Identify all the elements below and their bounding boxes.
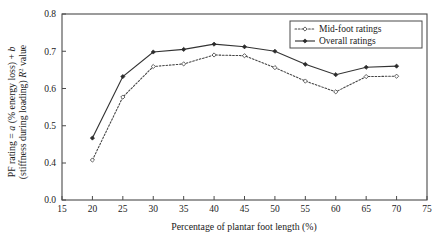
y-axis-ticks: 0.00.40.50.60.70.8 xyxy=(44,9,66,205)
data-point-marker xyxy=(394,64,398,68)
legend-item-label-2: Overall ratings xyxy=(319,36,376,46)
data-point-marker xyxy=(212,53,216,57)
y-tick-label: 0.8 xyxy=(44,9,56,19)
series-layer xyxy=(90,42,398,162)
line-chart: PF rating = a (% energy loss) + b (stiff… xyxy=(0,0,444,240)
data-point-marker xyxy=(273,49,277,53)
data-point-marker xyxy=(90,158,94,162)
y-axis-title: PF rating = a (% energy loss) + b (stiff… xyxy=(6,44,29,179)
data-point-marker xyxy=(273,66,277,70)
x-tick-label: 75 xyxy=(422,204,432,214)
chart-legend: Mid-foot ratingsOverall ratings xyxy=(290,21,422,48)
y-tick-label: 0.5 xyxy=(44,121,56,131)
y-axis-title-line2: (stiffness during loading) R2 value xyxy=(17,44,30,179)
x-tick-label: 60 xyxy=(331,204,341,214)
chart-figure: PF rating = a (% energy loss) + b (stiff… xyxy=(0,0,444,240)
data-point-marker xyxy=(334,90,338,94)
x-tick-label: 65 xyxy=(361,204,371,214)
data-point-marker xyxy=(182,62,186,66)
x-tick-label: 35 xyxy=(179,204,189,214)
x-tick-label: 40 xyxy=(209,204,219,214)
data-point-marker xyxy=(364,74,368,78)
y-tick-label: 0.4 xyxy=(44,158,56,168)
x-tick-label: 45 xyxy=(240,204,250,214)
data-point-marker xyxy=(303,62,307,66)
data-point-marker xyxy=(90,136,94,140)
y-tick-label: 0.7 xyxy=(44,47,56,57)
x-axis-ticks: 15202530354045505560657075 xyxy=(57,196,432,214)
y-tick-label: 0.0 xyxy=(44,195,56,205)
data-point-marker xyxy=(242,54,246,58)
y-tick-label: 0.6 xyxy=(44,84,56,94)
data-point-marker xyxy=(212,42,216,46)
x-tick-label: 30 xyxy=(149,204,159,214)
legend-item-label-1: Mid-foot ratings xyxy=(319,24,382,34)
x-tick-label: 25 xyxy=(118,204,128,214)
x-tick-label: 55 xyxy=(301,204,311,214)
data-point-marker xyxy=(303,79,307,83)
data-point-marker xyxy=(334,73,338,77)
data-point-marker xyxy=(242,45,246,49)
x-tick-label: 70 xyxy=(392,204,402,214)
x-tick-label: 50 xyxy=(270,204,280,214)
x-tick-label: 20 xyxy=(88,204,98,214)
data-point-marker xyxy=(182,47,186,51)
x-tick-label: 15 xyxy=(57,204,67,214)
data-point-marker xyxy=(394,74,398,78)
x-axis-title: Percentage of plantar foot length (%) xyxy=(171,221,317,233)
data-point-marker xyxy=(364,65,368,69)
